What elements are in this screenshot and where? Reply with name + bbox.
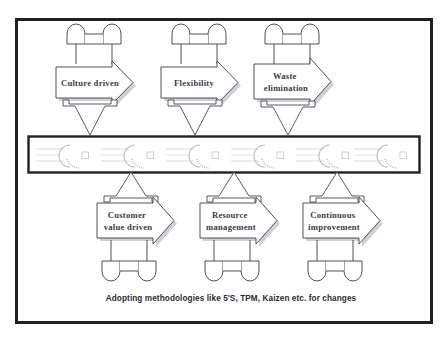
lean-flow-diagram: Culture driven Flexibility [0,0,447,344]
node-label-flexibility: Flexibility [174,78,214,88]
center-bar-body[interactable] [29,137,420,173]
diagram-caption: Adopting methodologies like 5'S, TPM, Ka… [106,294,357,303]
node-label-culture-driven: Culture driven [61,78,119,88]
center-conveyor-bar[interactable] [29,137,420,173]
diagram-canvas: Culture driven Flexibility [0,0,447,344]
